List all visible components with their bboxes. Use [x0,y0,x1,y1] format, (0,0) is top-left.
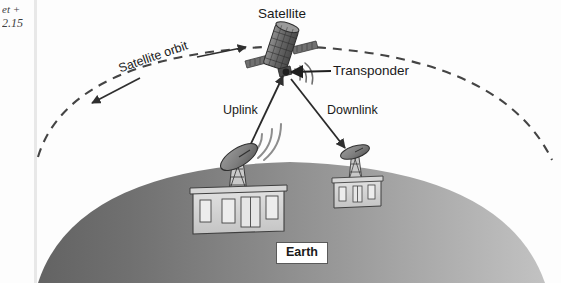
radio-waves-uplink-icon [252,124,281,160]
label-transponder: Transponder [333,64,409,78]
label-downlink: Downlink [327,104,378,117]
ground-station-building-icon [190,185,287,234]
receiver-building-icon [332,176,383,208]
label-uplink: Uplink [223,104,258,117]
orbit-arrow-right-icon [197,47,246,57]
label-satellite: Satellite [258,7,306,21]
label-earth: Earth [276,242,328,264]
orbit-arrow-left-icon [92,78,140,103]
radio-waves-satellite-icon [295,63,313,84]
earth-dome [38,162,545,283]
transponder-arrow-icon [291,71,331,72]
diagram-canvas: et + 2.15 [0,0,561,283]
satellite-orbit-path [38,46,552,160]
diagram-graphics [0,0,561,283]
